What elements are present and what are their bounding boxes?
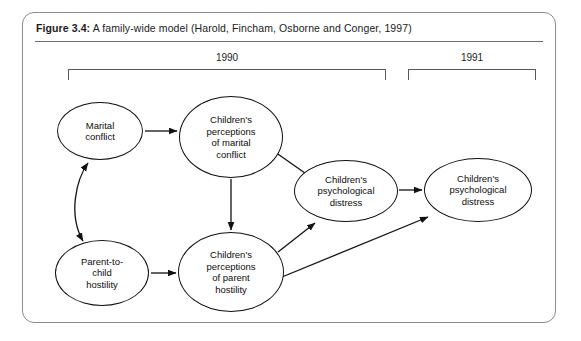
node-text-line: distress <box>462 196 495 207</box>
edge-marital-hostility-bidirectional <box>75 163 88 241</box>
edge-perceptions-parent-to-distress-1991 <box>282 217 428 277</box>
node-text-line: psychological <box>449 184 506 195</box>
node-text-line: perceptions <box>206 126 255 137</box>
node-marital-conflict: Marital conflict <box>57 102 143 160</box>
node-text-line: perceptions <box>206 261 255 272</box>
edge-perceptions-parent-to-distress-1990 <box>278 223 315 252</box>
node-parent-hostility-label: Parent-to- child hostility <box>81 256 123 291</box>
node-perceptions-of-parent-hostility: Children's perceptions of parent hostili… <box>178 232 284 312</box>
node-text-line: Parent-to- <box>81 256 123 267</box>
node-perceptions-marital-label: Children's perceptions of marital confli… <box>206 114 255 160</box>
node-childrens-psychological-distress-1991: Children's psychological distress <box>424 158 532 222</box>
node-text-line: conflict <box>216 149 246 160</box>
node-text-line: distress <box>330 197 363 208</box>
node-text-line: conflict <box>85 131 115 142</box>
node-text-line: of parent <box>212 272 250 283</box>
node-text-line: Children's <box>457 173 499 184</box>
node-text-line: of marital <box>211 137 250 148</box>
node-distress-1990-label: Children's psychological distress <box>317 174 374 209</box>
node-perceptions-of-marital-conflict: Children's perceptions of marital confli… <box>179 96 283 178</box>
node-text-line: Children's <box>325 174 367 185</box>
node-marital-conflict-label: Marital conflict <box>85 120 115 143</box>
node-text-line: hostility <box>215 284 247 295</box>
node-text-line: Children's <box>210 249 252 260</box>
node-text-line: Marital <box>86 120 115 131</box>
node-text-line: child <box>92 267 112 278</box>
figure-page: Figure 3.4: A family-wide model (Harold,… <box>0 0 581 341</box>
node-perceptions-parent-label: Children's perceptions of parent hostili… <box>206 249 255 295</box>
node-text-line: psychological <box>317 185 374 196</box>
node-childrens-psychological-distress-1990: Children's psychological distress <box>294 160 398 222</box>
node-distress-1991-label: Children's psychological distress <box>449 173 506 208</box>
node-text-line: Children's <box>210 114 252 125</box>
node-parent-to-child-hostility: Parent-to- child hostility <box>55 240 149 306</box>
node-text-line: hostility <box>86 279 118 290</box>
